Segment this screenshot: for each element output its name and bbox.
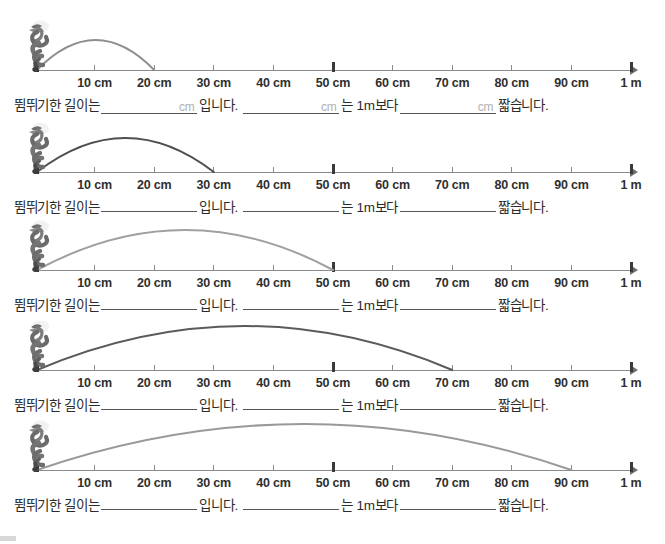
answer-blank-difference[interactable]: cm xyxy=(400,98,496,114)
grasshopper-icon xyxy=(18,18,58,72)
fill-in-sentence: 뜀뛰기한 길이는입니다. 는 1m보다짧습니다. xyxy=(14,294,548,314)
sentence-part-1: 뜀뛰기한 길이는 xyxy=(14,394,99,414)
jump-arc xyxy=(0,218,665,280)
sentence-part-4: 짧습니다. xyxy=(498,196,548,216)
answer-blank-compare-subject[interactable]: cm xyxy=(243,98,339,114)
jump-arc xyxy=(0,18,665,80)
answer-blank-difference[interactable] xyxy=(400,494,496,510)
fill-in-sentence: 뜀뛰기한 길이는입니다. 는 1m보다짧습니다. xyxy=(14,494,548,514)
answer-blank-length[interactable] xyxy=(101,394,197,410)
sentence-part-2: 입니다. xyxy=(199,494,238,514)
jump-arc xyxy=(0,418,665,480)
sentence-part-1: 뜀뛰기한 길이는 xyxy=(14,196,99,216)
grasshopper-figure xyxy=(18,218,58,272)
number-line: 10 cm20 cm30 cm40 cm50 cm60 cm70 cm80 cm… xyxy=(0,418,665,480)
bottom-edge-mark xyxy=(0,536,16,541)
answer-blank-difference[interactable] xyxy=(400,196,496,212)
sentence-part-2: 입니다. xyxy=(199,394,238,414)
sentence-part-4: 짧습니다. xyxy=(498,94,548,114)
answer-blank-length[interactable] xyxy=(101,294,197,310)
fill-in-sentence: 뜀뛰기한 길이는입니다. 는 1m보다짧습니다. xyxy=(14,394,548,414)
grasshopper-figure xyxy=(18,418,58,472)
grasshopper-figure xyxy=(18,318,58,372)
sentence-part-3: 는 1m보다 xyxy=(341,196,398,216)
unit-hint: cm xyxy=(179,100,197,114)
sentence-part-3: 는 1m보다 xyxy=(341,394,398,414)
sentence-part-4: 짧습니다. xyxy=(498,294,548,314)
answer-blank-compare-subject[interactable] xyxy=(243,394,339,410)
answer-blank-compare-subject[interactable] xyxy=(243,196,339,212)
unit-hint: cm xyxy=(321,100,339,114)
grasshopper-figure xyxy=(18,18,58,72)
sentence-part-3: 는 1m보다 xyxy=(341,294,398,314)
sentence-part-2: 입니다. xyxy=(199,196,238,216)
grasshopper-icon xyxy=(18,120,58,174)
answer-blank-length[interactable]: cm xyxy=(101,98,197,114)
sentence-part-1: 뜀뛰기한 길이는 xyxy=(14,94,99,114)
answer-blank-length[interactable] xyxy=(101,494,197,510)
number-line: 10 cm20 cm30 cm40 cm50 cm60 cm70 cm80 cm… xyxy=(0,218,665,280)
grasshopper-icon xyxy=(18,218,58,272)
number-line: 10 cm20 cm30 cm40 cm50 cm60 cm70 cm80 cm… xyxy=(0,120,665,182)
worksheet-page: · · · · · · · · 10 cm20 cm30 cm40 cm50 c… xyxy=(0,0,665,544)
fill-in-sentence: 뜀뛰기한 길이는입니다. 는 1m보다짧습니다. xyxy=(14,196,548,216)
sentence-part-2: 입니다. xyxy=(199,294,238,314)
sentence-part-2: 입니다. xyxy=(199,94,238,114)
answer-blank-compare-subject[interactable] xyxy=(243,294,339,310)
grasshopper-figure xyxy=(18,120,58,174)
grasshopper-icon xyxy=(18,418,58,472)
answer-blank-length[interactable] xyxy=(101,196,197,212)
answer-blank-difference[interactable] xyxy=(400,394,496,410)
answer-blank-compare-subject[interactable] xyxy=(243,494,339,510)
sentence-part-4: 짧습니다. xyxy=(498,394,548,414)
sentence-part-1: 뜀뛰기한 길이는 xyxy=(14,494,99,514)
fill-in-sentence: 뜀뛰기한 길이는cm입니다. cm는 1m보다cm짧습니다. xyxy=(14,94,548,114)
unit-hint: cm xyxy=(478,100,496,114)
top-faint-text: · · · · · · · · xyxy=(44,0,214,9)
sentence-part-4: 짧습니다. xyxy=(498,494,548,514)
number-line: 10 cm20 cm30 cm40 cm50 cm60 cm70 cm80 cm… xyxy=(0,18,665,80)
number-line: 10 cm20 cm30 cm40 cm50 cm60 cm70 cm80 cm… xyxy=(0,318,665,380)
sentence-part-3: 는 1m보다 xyxy=(341,494,398,514)
grasshopper-icon xyxy=(18,318,58,372)
jump-arc xyxy=(0,318,665,380)
jump-arc xyxy=(0,120,665,182)
sentence-part-3: 는 1m보다 xyxy=(341,94,398,114)
sentence-part-1: 뜀뛰기한 길이는 xyxy=(14,294,99,314)
answer-blank-difference[interactable] xyxy=(400,294,496,310)
